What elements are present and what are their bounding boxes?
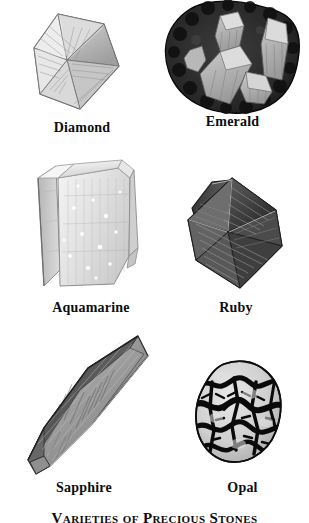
specimen-aquamarine: Aquamarine: [30, 152, 152, 320]
specimen-diamond: Diamond: [18, 8, 146, 136]
caption-ruby: Ruby: [176, 300, 296, 316]
aquamarine-crystal-icon: [30, 152, 152, 297]
caption-diamond: Diamond: [18, 120, 146, 136]
specimen-opal: Opal: [190, 358, 295, 498]
caption-sapphire: Sapphire: [14, 480, 154, 496]
plate-illustration: Diamond: [0, 0, 309, 523]
emerald-crystal-icon: [160, 0, 305, 118]
caption-emerald: Emerald: [160, 114, 305, 130]
caption-opal: Opal: [190, 480, 295, 496]
caption-aquamarine: Aquamarine: [30, 300, 152, 316]
diamond-crystal-icon: [18, 8, 146, 118]
plate-title: Varieties of Precious Stones: [0, 510, 309, 523]
specimen-emerald: Emerald: [160, 0, 305, 136]
specimen-ruby: Ruby: [176, 172, 296, 320]
ruby-crystal-icon: [176, 172, 296, 297]
opal-nodule-icon: [190, 358, 295, 478]
specimen-sapphire: Sapphire: [14, 332, 154, 497]
sapphire-crystal-icon: [14, 332, 154, 480]
